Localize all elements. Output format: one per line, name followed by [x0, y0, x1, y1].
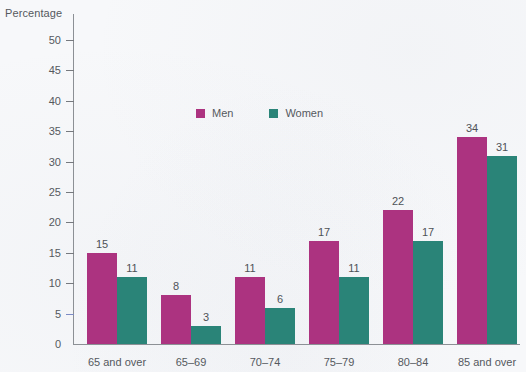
bar-value-label: 8 — [173, 280, 179, 292]
legend-item-men[interactable]: Men — [196, 107, 233, 119]
bar-men[interactable]: 8 — [161, 295, 191, 344]
y-axis-tick — [66, 101, 74, 102]
bar-group: 221780–84 — [383, 40, 443, 344]
y-axis-tick-label: 50 — [49, 34, 61, 46]
legend-swatch-icon — [196, 109, 205, 118]
y-axis-tick — [66, 70, 74, 71]
bar-women[interactable]: 31 — [487, 156, 517, 344]
y-axis-tick — [66, 192, 74, 193]
bar-value-label: 17 — [422, 226, 434, 238]
bar-value-label: 11 — [126, 262, 137, 274]
bar-value-label: 22 — [392, 195, 404, 207]
y-axis-tick — [66, 162, 74, 163]
bar-men[interactable]: 17 — [309, 241, 339, 344]
y-axis-tick-label: 20 — [49, 216, 61, 228]
y-axis-tick-label: 5 — [55, 308, 61, 320]
y-axis-tick-label: 25 — [49, 186, 61, 198]
bar-men[interactable]: 15 — [87, 253, 117, 344]
x-axis-line — [73, 344, 520, 345]
x-axis-category-label: 75–79 — [324, 356, 355, 368]
legend-swatch-icon — [269, 109, 278, 118]
bar-value-label: 31 — [496, 141, 508, 153]
y-axis-tick-label: 30 — [49, 156, 61, 168]
bar-women[interactable]: 6 — [265, 308, 295, 344]
bar-value-label: 11 — [348, 262, 359, 274]
bar-group: 151165 and over — [87, 40, 147, 344]
y-axis-tick — [66, 131, 74, 132]
y-axis-tick-label: 35 — [49, 125, 61, 137]
bar-women[interactable]: 17 — [413, 241, 443, 344]
x-axis-category-label: 65–69 — [176, 356, 207, 368]
bar-group: 8365–69 — [161, 40, 221, 344]
bar-value-label: 6 — [277, 293, 283, 305]
bar-value-label: 34 — [466, 122, 478, 134]
x-axis-category-label: 80–84 — [398, 356, 429, 368]
legend-label: Women — [285, 107, 323, 119]
bar-women[interactable]: 11 — [339, 277, 369, 344]
y-axis-tick — [66, 40, 74, 41]
x-axis-category-label: 85 and over — [458, 356, 516, 368]
bar-value-label: 11 — [244, 262, 255, 274]
bar-group: 343185 and over — [457, 40, 517, 344]
bar-women[interactable]: 3 — [191, 326, 221, 344]
y-axis-tick-label: 15 — [49, 247, 61, 259]
y-axis-tick-label: 40 — [49, 95, 61, 107]
y-axis-tick-label: 45 — [49, 64, 61, 76]
bar-men[interactable]: 22 — [383, 210, 413, 344]
bar-value-label: 3 — [203, 311, 209, 323]
legend-item-women[interactable]: Women — [269, 107, 323, 119]
legend-label: Men — [212, 107, 233, 119]
y-axis-tick — [66, 222, 74, 223]
y-axis-tick — [66, 253, 74, 254]
bar-men[interactable]: 11 — [235, 277, 265, 344]
y-axis-line — [73, 14, 74, 344]
y-axis-tick — [66, 283, 74, 284]
bar-men[interactable]: 34 — [457, 137, 487, 344]
chart-legend: MenWomen — [196, 107, 323, 119]
bar-group: 171175–79 — [309, 40, 369, 344]
bar-value-label: 15 — [96, 238, 108, 250]
x-axis-category-label: 70–74 — [250, 356, 281, 368]
y-axis-tick — [66, 314, 74, 315]
bar-value-label: 17 — [318, 226, 330, 238]
y-axis-title: Percentage — [5, 7, 62, 19]
plot-area: 05101520253035404550 151165 and over8365… — [74, 40, 520, 344]
y-axis-tick-label: 10 — [49, 277, 61, 289]
y-axis-tick-label: 0 — [55, 338, 61, 350]
bar-women[interactable]: 11 — [117, 277, 147, 344]
bar-group: 11670–74 — [235, 40, 295, 344]
x-axis-category-label: 65 and over — [88, 356, 146, 368]
bar-chart: Percentage 05101520253035404550 151165 a… — [0, 0, 526, 372]
